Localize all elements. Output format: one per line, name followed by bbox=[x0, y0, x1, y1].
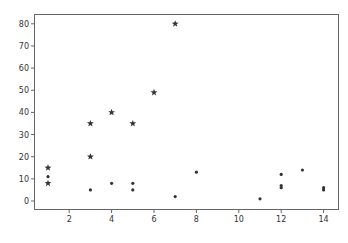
dot-marker bbox=[46, 175, 49, 178]
dot-marker bbox=[280, 186, 283, 189]
y-axis: 01020304050607080 bbox=[19, 20, 35, 206]
y-tick-label: 10 bbox=[19, 175, 29, 184]
dot-marker bbox=[301, 168, 304, 171]
plot-frame bbox=[35, 15, 339, 210]
dot-marker bbox=[131, 188, 134, 191]
dot-marker bbox=[280, 173, 283, 176]
y-tick-label: 40 bbox=[19, 108, 29, 117]
y-tick-label: 0 bbox=[24, 197, 29, 206]
y-tick-label: 80 bbox=[19, 20, 29, 29]
dot-marker bbox=[110, 182, 113, 185]
dot-marker bbox=[322, 188, 325, 191]
x-axis: 2468101214 bbox=[67, 210, 329, 225]
x-tick-label: 14 bbox=[319, 215, 329, 224]
dot-marker bbox=[89, 188, 92, 191]
y-tick-label: 30 bbox=[19, 131, 29, 140]
scatter-chart: 01020304050607080 2468101214 bbox=[0, 0, 348, 243]
dot-marker bbox=[195, 171, 198, 174]
x-tick-label: 2 bbox=[67, 215, 72, 224]
x-tick-label: 10 bbox=[234, 215, 244, 224]
dot-marker bbox=[258, 197, 261, 200]
dot-marker bbox=[131, 182, 134, 185]
x-tick-label: 12 bbox=[276, 215, 286, 224]
x-tick-label: 6 bbox=[151, 215, 156, 224]
y-tick-label: 60 bbox=[19, 64, 29, 73]
dot-marker bbox=[174, 195, 177, 198]
y-tick-label: 50 bbox=[19, 86, 29, 95]
x-tick-label: 4 bbox=[109, 215, 114, 224]
y-tick-label: 70 bbox=[19, 42, 29, 51]
y-tick-label: 20 bbox=[19, 153, 29, 162]
x-tick-label: 8 bbox=[194, 215, 199, 224]
